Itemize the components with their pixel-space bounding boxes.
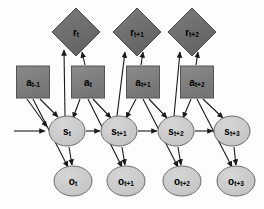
- edge-a_t1-to-s_t1: [126, 99, 136, 118]
- observation-ellipse-shape: [107, 166, 145, 196]
- edge-s_t2-to-r_t2: [174, 52, 180, 116]
- reward-diamond-shape: [168, 8, 216, 56]
- observation-node-o_t1[interactable]: ot+1: [107, 166, 145, 196]
- observation-node-o_t[interactable]: ot: [54, 166, 92, 196]
- edge-a_t-to-s_t: [73, 99, 80, 118]
- state-node-s_t3[interactable]: st+3: [214, 116, 250, 146]
- edge-s_t1-to-r_t1: [117, 52, 125, 116]
- state-ellipse-shape: [101, 116, 137, 146]
- reward-node-r_t1[interactable]: rt+1: [113, 8, 161, 56]
- action-node-a_t[interactable]: at: [72, 66, 105, 98]
- node-layer: rtrt+1rt+2at-1atat+1at+2stst+1st+2st+3ot…: [17, 8, 256, 196]
- reward-node-r_t2[interactable]: rt+2: [168, 8, 216, 56]
- edge-a_t2-to-s_t3: [203, 99, 223, 118]
- state-ellipse-shape: [158, 116, 194, 146]
- state-ellipse-shape: [49, 116, 85, 146]
- observation-ellipse-shape: [54, 166, 92, 196]
- action-square-shape: [17, 66, 50, 98]
- action-square-shape: [72, 66, 105, 98]
- observation-ellipse-shape: [217, 166, 255, 196]
- action-node-a_tm1[interactable]: at-1: [17, 66, 50, 98]
- observation-node-o_t2[interactable]: ot+2: [163, 166, 201, 196]
- observation-ellipse-shape: [163, 166, 201, 196]
- action-square-shape: [181, 66, 214, 98]
- observation-node-o_t3[interactable]: ot+3: [217, 166, 255, 196]
- state-node-s_t1[interactable]: st+1: [101, 116, 137, 146]
- edge-s_t-to-r_t: [64, 50, 65, 116]
- action-square-shape: [127, 66, 160, 98]
- edge-s_t3-to-o_t3: [234, 147, 236, 165]
- edge-a_t2-to-r_t2: [196, 52, 198, 65]
- pomdp-diagram: rtrt+1rt+2at-1atat+1at+2stst+1st+2st+3ot…: [0, 0, 264, 209]
- reward-diamond-shape: [52, 8, 100, 56]
- graph-canvas: rtrt+1rt+2at-1atat+1at+2stst+1st+2st+3ot…: [0, 0, 264, 209]
- edge-a_t-to-r_t: [82, 52, 85, 65]
- edge-a_tm1-to-s_t: [40, 99, 58, 117]
- edge-s_t-to-o_t: [69, 147, 72, 165]
- state-node-s_t2[interactable]: st+2: [158, 116, 194, 146]
- reward-diamond-shape: [113, 8, 161, 56]
- edge-s_t2-to-o_t2: [178, 147, 181, 165]
- state-ellipse-shape: [214, 116, 250, 146]
- action-node-a_t2[interactable]: at+2: [181, 66, 214, 98]
- edge-a_t1-to-r_t1: [141, 52, 143, 65]
- edge-a_t2-to-s_t2: [183, 99, 191, 118]
- reward-node-r_t[interactable]: rt: [52, 8, 100, 56]
- edge-s_t1-to-o_t1: [122, 147, 125, 165]
- state-node-s_t[interactable]: st: [49, 116, 85, 146]
- action-node-a_t1[interactable]: at+1: [127, 66, 160, 98]
